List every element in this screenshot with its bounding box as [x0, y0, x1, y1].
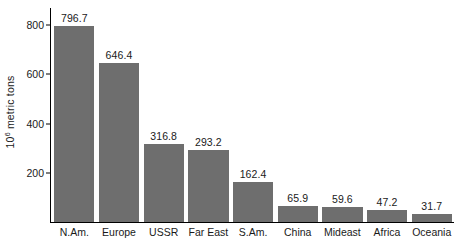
bar-rect — [99, 63, 139, 222]
y-axis-line — [50, 8, 51, 223]
bar-value-label: 316.8 — [150, 130, 177, 142]
bar-rect — [412, 214, 452, 222]
y-tick-mark — [46, 74, 51, 75]
x-axis-line — [50, 222, 454, 223]
bar-rect — [322, 207, 362, 222]
bar-value-label: 31.7 — [421, 200, 442, 212]
bar-value-label: 293.2 — [195, 136, 222, 148]
y-axis-title-exponent: 6 — [4, 132, 11, 136]
y-axis-title-suffix: metric tons — [4, 75, 16, 132]
y-axis-title-mantissa: 10 — [4, 136, 16, 148]
bar-rect — [278, 206, 318, 222]
bar-rect — [188, 150, 228, 222]
x-axis-category-label: N.Am. — [53, 226, 96, 238]
x-axis-category-label: Mideast — [321, 226, 364, 238]
bar-value-label: 65.9 — [287, 192, 308, 204]
x-axis-category-label: USSR — [142, 226, 185, 238]
bar-value-label: 646.4 — [106, 49, 133, 61]
bar-group: 293.2 — [188, 8, 228, 222]
x-axis-category-label: China — [276, 226, 319, 238]
bar-chart: 106 metric tons 200400600800 796.7646.43… — [0, 0, 457, 248]
bar-group: 646.4 — [99, 8, 139, 222]
bar-group: 162.4 — [233, 8, 273, 222]
bar-value-label: 796.7 — [61, 12, 88, 24]
bar-group: 59.6 — [322, 8, 362, 222]
x-axis-category-label: Europe — [98, 226, 141, 238]
bar-rect — [367, 210, 407, 222]
bars-container: 796.7646.4316.8293.2162.465.959.647.231.… — [52, 8, 454, 222]
bar-value-label: 47.2 — [377, 196, 398, 208]
y-tick-mark — [46, 25, 51, 26]
bar-group: 31.7 — [412, 8, 452, 222]
bar-group: 316.8 — [144, 8, 184, 222]
y-axis-title: 106 metric tons — [0, 0, 20, 223]
x-axis-category-label: Far East — [187, 226, 230, 238]
bar-group: 796.7 — [54, 8, 94, 222]
x-axis-category-label: Africa — [366, 226, 409, 238]
bar-value-label: 162.4 — [240, 168, 267, 180]
bar-group: 47.2 — [367, 8, 407, 222]
x-axis-labels: N.Am.EuropeUSSRFar EastS.Am.ChinaMideast… — [52, 226, 454, 238]
bar-rect — [54, 26, 94, 222]
bar-rect — [233, 182, 273, 222]
x-axis-category-label: Oceania — [410, 226, 453, 238]
bar-value-label: 59.6 — [332, 193, 353, 205]
bar-rect — [144, 144, 184, 222]
y-tick-mark — [46, 123, 51, 124]
y-tick-mark — [46, 172, 51, 173]
x-axis-category-label: S.Am. — [232, 226, 275, 238]
y-axis-title-text: 106 metric tons — [4, 75, 16, 148]
bar-group: 65.9 — [278, 8, 318, 222]
